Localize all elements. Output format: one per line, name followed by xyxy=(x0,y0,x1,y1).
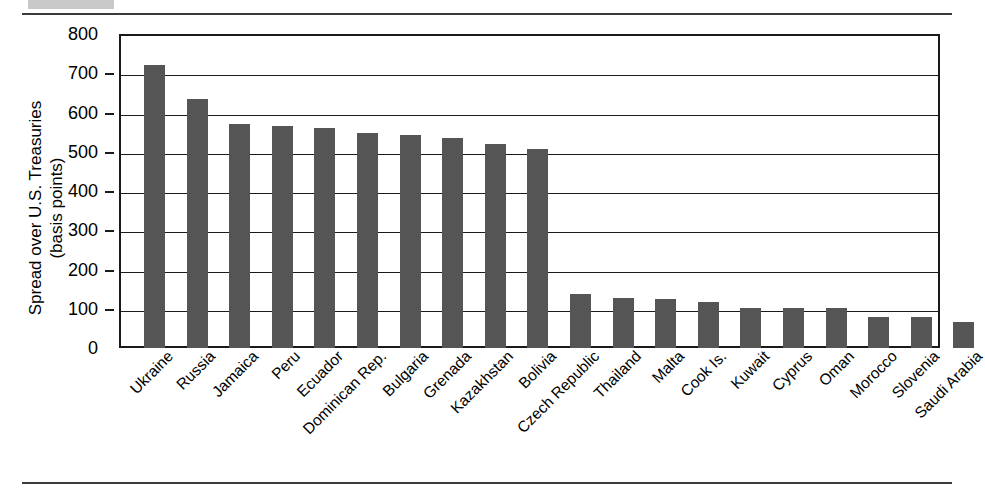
bar-series xyxy=(119,34,940,348)
bar xyxy=(442,138,463,348)
y-tick-label: 100 xyxy=(68,300,98,318)
y-tick-label: 400 xyxy=(68,182,98,200)
y-tick-mark xyxy=(105,230,114,232)
x-tick-label: Peru xyxy=(269,348,303,382)
bar xyxy=(698,302,719,348)
bar xyxy=(400,135,421,348)
y-tick-label: 700 xyxy=(68,64,98,82)
bar xyxy=(187,99,208,348)
bar xyxy=(314,128,335,348)
x-tick-label: Jamaica xyxy=(209,348,261,400)
bottom-divider-rule xyxy=(22,482,952,484)
x-tick-label: Cook Is. xyxy=(678,348,730,400)
y-tick-label: 600 xyxy=(68,104,98,122)
bar xyxy=(911,317,932,348)
bar xyxy=(655,299,676,348)
bar xyxy=(613,298,634,348)
x-tick-label: Czech Republic xyxy=(514,348,602,436)
bar xyxy=(783,308,804,348)
y-tick-mark xyxy=(105,270,114,272)
bar xyxy=(868,317,889,348)
x-axis-tick-labels: UkraineRussiaJamaicaPeruEcuadorDominican… xyxy=(119,348,964,488)
y-axis-tick-labels: 0100200300400500600700800 xyxy=(0,34,112,348)
y-tick-mark xyxy=(105,309,114,311)
top-divider-rule xyxy=(22,13,952,15)
x-tick-label: Ukraine xyxy=(127,348,176,397)
y-tick-mark xyxy=(105,113,114,115)
y-tick-label: 800 xyxy=(68,25,98,43)
bar xyxy=(144,65,165,348)
y-tick-label: 500 xyxy=(68,143,98,161)
bar xyxy=(485,144,506,348)
bar xyxy=(953,322,974,348)
y-tick-mark xyxy=(105,73,114,75)
bar xyxy=(570,294,591,348)
x-tick-label: Cyprus xyxy=(769,348,815,394)
y-tick-label: 0 xyxy=(88,339,98,357)
y-tick-label: 200 xyxy=(68,261,98,279)
bar xyxy=(826,308,847,348)
y-tick-mark xyxy=(105,191,114,193)
bar xyxy=(357,133,378,348)
y-tick-label: 300 xyxy=(68,221,98,239)
header-gray-block xyxy=(28,0,114,9)
bar xyxy=(272,126,293,348)
bar xyxy=(740,308,761,348)
x-tick-label: Malta xyxy=(649,348,687,386)
y-tick-mark xyxy=(105,152,114,154)
bar xyxy=(229,124,250,349)
bar xyxy=(527,149,548,348)
x-tick-label: Kuwait xyxy=(728,348,772,392)
